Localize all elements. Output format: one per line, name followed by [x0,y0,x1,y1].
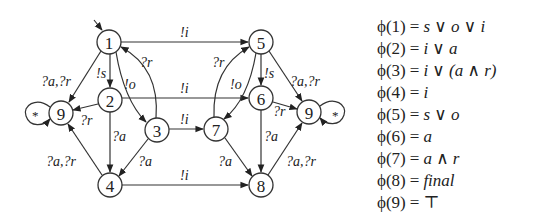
formula-eq: = [406,171,424,190]
formula-7: ϕ(7)=a ∧ r [377,148,496,170]
node-8-label: 8 [257,177,266,196]
node-9-left-label: 9 [57,105,66,124]
formula-rhs: i [423,83,428,102]
formula-eq: = [406,39,424,58]
label-7-8: ?a [218,154,232,169]
label-2-4: ?a [112,129,126,144]
formula-eq: = [406,193,424,212]
label-2-6: !i [180,81,189,96]
formula-rhs: s ∨ o ∨ i [423,17,485,36]
label-1-2: !s [96,66,107,81]
initial-arrow [94,20,102,30]
formula-rhs: a ∧ r [423,149,459,168]
node-7-label: 7 [212,121,221,140]
formula-lhs: ϕ(7) [377,149,406,168]
formula-eq: = [406,105,424,124]
label-1-5: !i [180,25,189,40]
label-5-7: !o [230,77,242,92]
node-5-label: 5 [257,34,266,53]
label-loop-9L: * [32,108,39,123]
formula-eq: = [406,61,424,80]
node-3-label: 3 [153,122,162,141]
formula-lhs: ϕ(1) [377,17,406,36]
label-4-8: !i [180,168,189,183]
node-9-right-label: 9 [305,104,314,123]
formula-rhs: ⊤ [423,193,439,212]
automaton-diagram: 1 2 3 4 5 6 7 8 9 9 !i !i !i !i !s !o ?r… [0,0,360,224]
node-2-label: 2 [106,92,115,111]
label-6-8: ?a [264,129,278,144]
node-1-label: 1 [105,34,114,53]
node-6-label: 6 [257,90,266,109]
label-4-9L: ?a,?r [46,154,77,169]
formula-rhs: final [423,171,454,190]
label-7-5: ?r [212,55,225,70]
label-1-9L: ?a,?r [41,74,72,89]
formula-list: ϕ(1)=s ∨ o ∨ i ϕ(2)=i ∨ a ϕ(3)=i ∨ (a ∧ … [377,16,496,214]
formula-rhs: a [423,127,432,146]
node-4-label: 4 [106,177,115,196]
formula-9: ϕ(9)=⊤ [377,192,496,214]
formula-lhs: ϕ(3) [377,61,406,80]
label-8-9R: ?a,?r [286,154,317,169]
formula-rhs: s ∨ o [423,105,459,124]
edge-2-9L [73,104,98,110]
formula-rhs: i ∨ a [423,39,457,58]
formula-3: ϕ(3)=i ∨ (a ∧ r) [377,60,496,82]
formula-rhs: i ∨ (a ∧ r) [423,61,496,80]
label-2-9L: ?r [80,113,93,128]
formula-lhs: ϕ(8) [377,171,406,190]
formula-eq: = [406,83,424,102]
label-6-9R: ?r [273,104,286,119]
formula-eq: = [406,127,424,146]
formula-lhs: ϕ(6) [377,127,406,146]
label-loop-9R: * [332,108,339,123]
formula-eq: = [406,149,424,168]
label-3-7: !i [180,112,189,127]
formula-lhs: ϕ(2) [377,39,406,58]
label-1-3: !o [124,77,136,92]
formula-lhs: ϕ(9) [377,193,406,212]
formula-8: ϕ(8)=final [377,170,496,192]
formula-lhs: ϕ(5) [377,105,406,124]
formula-1: ϕ(1)=s ∨ o ∨ i [377,16,496,38]
label-5-9R: ?a,?r [290,74,321,89]
label-5-6: !s [264,66,275,81]
formula-2: ϕ(2)=i ∨ a [377,38,496,60]
label-3-1: ?r [140,55,153,70]
formula-6: ϕ(6)=a [377,126,496,148]
formula-lhs: ϕ(4) [377,83,406,102]
formula-eq: = [406,17,424,36]
formula-5: ϕ(5)=s ∨ o [377,104,496,126]
label-3-4: ?a [138,154,152,169]
formula-4: ϕ(4)=i [377,82,496,104]
